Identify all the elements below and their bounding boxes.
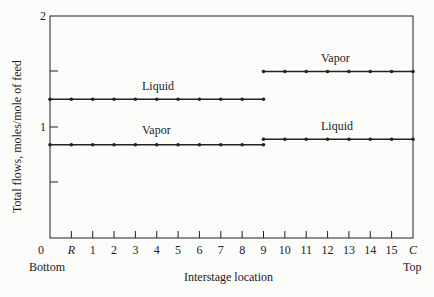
series-layer [48,70,415,147]
data-point [219,97,223,101]
data-point [283,137,287,141]
data-point [176,97,180,101]
x-tick-label: 1 [90,243,96,257]
data-point [347,137,351,141]
data-point [283,70,287,74]
x-tick-label: 2 [111,243,117,257]
annotation-liquid-upper: Liquid [321,119,353,133]
x-ticks [71,231,391,238]
x-tick-label: C [409,243,418,257]
data-point [347,70,351,74]
data-point [304,70,308,74]
data-point [326,70,330,74]
x-tick-label: R [67,243,76,257]
x-tick-label: 13 [343,243,355,257]
data-point [176,143,180,147]
x-tick-label: 10 [279,243,291,257]
data-point [198,143,202,147]
data-point [411,137,415,141]
x-tick-label: 15 [386,243,398,257]
x-tick-label: 0 [38,243,44,257]
data-point [198,97,202,101]
annotation-vapor-lower: Vapor [142,123,171,137]
x-end-label-bottom: Bottom [29,260,66,274]
data-point [262,97,266,101]
data-point [134,143,138,147]
x-tick-label: 3 [132,243,138,257]
data-point [262,70,266,74]
x-tick-label: 7 [218,243,224,257]
x-axis-label: Interstage location [184,270,273,284]
data-point [304,137,308,141]
data-point [48,143,52,147]
annotation-vapor-upper: Vapor [321,51,350,65]
y-axis-label: Total flows, moles/mole of feed [10,60,24,213]
y-ticks [50,71,58,182]
x-tick-labels: 0R123456789101112131415C [38,243,418,257]
data-point [155,143,159,147]
data-point [134,97,138,101]
annotation-liquid-lower: Liquid [142,79,174,93]
x-tick-label: 6 [196,243,202,257]
x-tick-label: 14 [364,243,376,257]
plot-frame [50,16,413,238]
data-point [155,97,159,101]
data-point [368,70,372,74]
x-tick-label: 12 [322,243,334,257]
x-end-label-top: Top [403,260,422,274]
data-point [368,137,372,141]
data-point [91,97,95,101]
data-point [219,143,223,147]
x-tick-label: 11 [300,243,312,257]
data-point [112,97,116,101]
x-tick-label: 9 [261,243,267,257]
data-point [112,143,116,147]
y-tick-label-2: 2 [40,9,46,23]
x-tick-label: 5 [175,243,181,257]
data-point [240,97,244,101]
data-point [411,70,415,74]
data-point [390,137,394,141]
data-point [262,143,266,147]
data-point [70,97,74,101]
y-tick-label-1: 1 [40,120,46,134]
data-point [240,143,244,147]
x-tick-label: 8 [239,243,245,257]
data-point [390,70,394,74]
data-point [48,97,52,101]
x-tick-label: 4 [154,243,160,257]
chart: 2 1 Total flows, moles/mole of feed 0R12… [0,0,434,297]
data-point [262,137,266,141]
data-point [91,143,95,147]
data-point [70,143,74,147]
data-point [326,137,330,141]
